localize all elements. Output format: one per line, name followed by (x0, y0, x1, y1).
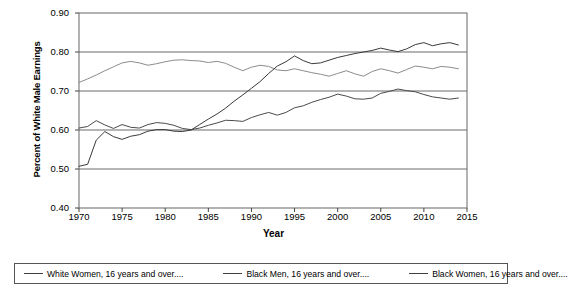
x-axis-title: Year (79, 228, 468, 239)
legend-line-swatch-icon (223, 273, 242, 274)
data-series-line-0 (79, 60, 458, 83)
data-series-line-2 (79, 43, 458, 167)
data-series-line-1 (79, 89, 458, 130)
legend-label: Black Men, 16 years and over.... (246, 269, 369, 279)
legend-label: White Women, 16 years and over.... (47, 269, 183, 279)
legend-entry-black-women: Black Women, 16 years and over.... (409, 269, 568, 279)
legend-entry-white-women: White Women, 16 years and over.... (24, 269, 183, 279)
legend-line-swatch-icon (24, 273, 43, 274)
legend-label: Black Women, 16 years and over.... (432, 269, 568, 279)
chart-legend: White Women, 16 years and over.... Black… (14, 263, 508, 284)
legend-line-swatch-icon (409, 273, 428, 274)
legend-entry-black-men: Black Men, 16 years and over.... (223, 269, 369, 279)
plot-frame (79, 13, 467, 208)
